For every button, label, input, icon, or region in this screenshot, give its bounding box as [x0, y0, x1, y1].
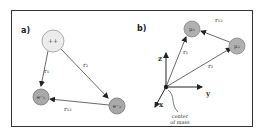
edge-r12 [201, 31, 232, 43]
panel-b: b) z y x r₁ r₂ r₁₂ μ₁ μ₂ center of mass [137, 16, 245, 125]
center-of-mass-point [164, 85, 168, 89]
node-mass-1: μ₁ [184, 21, 200, 37]
y-axis-label: y [205, 89, 211, 98]
node-mass-2: μ₂ [229, 38, 245, 54]
node-nucleus: ++ [42, 30, 64, 52]
edge-r12-label: r₁₂ [64, 105, 72, 112]
edge-r2-label: r₂ [208, 62, 214, 69]
svg-text:++: ++ [48, 37, 58, 44]
panel-a: a) r₁ r₂ r₁₂ ++ e⁻₁ e⁻₂ [21, 26, 125, 114]
node-electron-1: e⁻₁ [33, 89, 49, 105]
node-electron-2: e⁻₂ [109, 98, 125, 114]
svg-text:e⁻₁: e⁻₁ [37, 94, 45, 100]
svg-text:e⁻₂: e⁻₂ [113, 103, 121, 109]
svg-text:μ₁: μ₁ [189, 26, 195, 33]
z-axis-label: z [158, 54, 162, 63]
edge-r1-label: r₁ [44, 67, 49, 74]
panel-a-label: a) [21, 26, 30, 35]
svg-text:μ₂: μ₂ [234, 43, 240, 50]
annotation-line-2: of mass [170, 119, 190, 125]
annotation-leader [168, 90, 178, 112]
diagram-canvas: a) r₁ r₂ r₁₂ ++ e⁻₁ e⁻₂ b) z y x [0, 0, 261, 136]
edge-r1-label: r₁ [183, 48, 188, 55]
edge-r2-label: r₂ [83, 61, 89, 68]
edge-r12-label: r₁₂ [215, 16, 223, 23]
edge-r2 [60, 48, 108, 98]
x-axis-label: x [159, 100, 164, 109]
edge-r2 [166, 48, 231, 87]
edge-r1 [166, 37, 186, 87]
panel-b-label: b) [137, 24, 146, 33]
edge-r12 [50, 99, 109, 105]
